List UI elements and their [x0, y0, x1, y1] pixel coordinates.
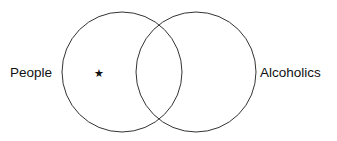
set-label-alcoholics: Alcoholics [260, 65, 321, 80]
star-marker-icon: ★ [94, 67, 104, 80]
set-circle-people [62, 12, 182, 132]
set-label-people: People [10, 65, 52, 80]
set-circle-alcoholics [136, 12, 256, 132]
venn-diagram: People Alcoholics ★ [0, 0, 337, 141]
